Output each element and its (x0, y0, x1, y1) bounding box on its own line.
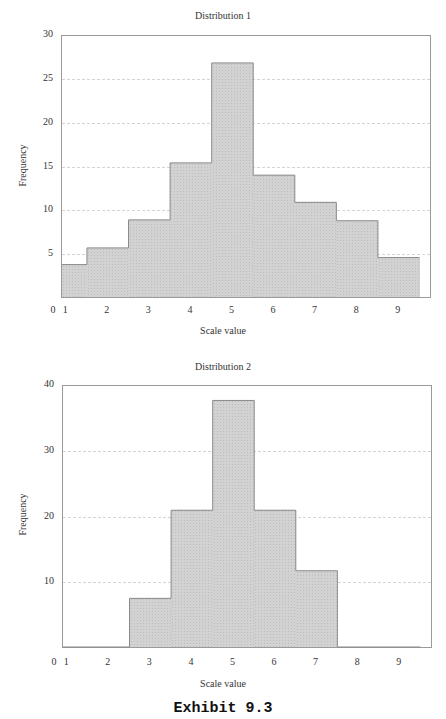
y-tick-label: 20 (33, 116, 53, 127)
histogram-outline (63, 386, 433, 649)
x-axis-label: Scale value (0, 678, 446, 689)
x-tick-label: 7 (305, 304, 325, 315)
x-tick-label: 8 (346, 304, 366, 315)
x-tick-label: 9 (388, 304, 408, 315)
x-tick-label: 8 (347, 656, 367, 667)
x-tick-label: 6 (264, 656, 284, 667)
x-tick-label: 5 (222, 656, 242, 667)
y-tick-label: 25 (33, 72, 53, 83)
x-tick-label: 9 (389, 656, 409, 667)
x-tick-label: 6 (263, 304, 283, 315)
chart-title: Distribution 1 (0, 10, 446, 21)
x-tick-label: 2 (98, 656, 118, 667)
y-tick-label: 20 (34, 510, 54, 521)
y-tick-label: 10 (33, 203, 53, 214)
x-axis-label: Scale value (0, 325, 446, 336)
x-tick-label: 2 (97, 304, 117, 315)
exhibit-caption: Exhibit 9.3 (0, 700, 446, 717)
y-axis-label: Frequency (17, 126, 28, 206)
y-axis-label: Frequency (17, 475, 28, 555)
plot-area (61, 35, 431, 298)
chart-title: Distribution 2 (0, 361, 446, 372)
x-tick-label: 3 (139, 656, 159, 667)
x-tick-label: 3 (138, 304, 158, 315)
y-tick-label: 30 (33, 28, 53, 39)
x-tick-label: 4 (181, 656, 201, 667)
y-tick-label: 10 (34, 575, 54, 586)
y-tick-label: 15 (33, 160, 53, 171)
x-tick-label: 5 (221, 304, 241, 315)
x-tick-label: 4 (180, 304, 200, 315)
y-tick-label: 40 (34, 378, 54, 389)
plot-area (62, 385, 432, 648)
x-tick-label: 1 (55, 304, 75, 315)
histogram-outline (62, 36, 432, 299)
x-tick-label: 1 (56, 656, 76, 667)
y-tick-label: 30 (34, 444, 54, 455)
x-tick-label: 7 (306, 656, 326, 667)
y-tick-label: 5 (33, 247, 53, 258)
